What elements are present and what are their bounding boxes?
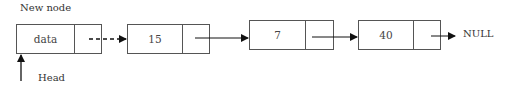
link-arrows [0,0,510,86]
